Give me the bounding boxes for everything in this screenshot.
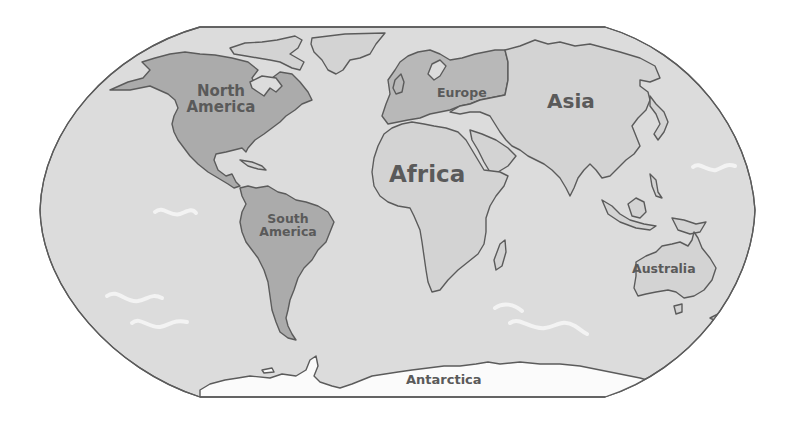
label-africa: Africa: [389, 162, 465, 186]
label-antarctica: Antarctica: [406, 373, 482, 387]
world-map: [0, 0, 791, 422]
label-north-america-line2: America: [178, 100, 264, 116]
label-south-america-line2: America: [252, 225, 324, 238]
tasmania: [674, 304, 682, 314]
label-asia: Asia: [547, 91, 595, 112]
label-europe: Europe: [437, 86, 487, 99]
label-australia: Australia: [632, 262, 696, 275]
label-south-america: South America: [252, 212, 324, 238]
label-north-america: North America: [178, 84, 264, 116]
